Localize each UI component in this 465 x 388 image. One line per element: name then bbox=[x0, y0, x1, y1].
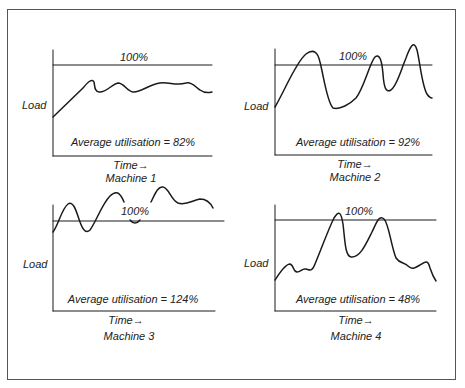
average-utilisation-text: Average utilisation = 92% bbox=[296, 136, 420, 148]
y-axis-label: Load bbox=[244, 257, 268, 269]
x-axis-label: Time→ bbox=[337, 158, 372, 170]
reference-label: 100% bbox=[339, 50, 367, 62]
machine-label: Machine 2 bbox=[330, 171, 381, 183]
machine-label: Machine 3 bbox=[104, 330, 155, 342]
machine-label: Machine 1 bbox=[106, 172, 157, 184]
average-utilisation-text: Average utilisation = 82% bbox=[71, 136, 195, 148]
load-charts bbox=[0, 0, 465, 388]
load-curve-segment-1 bbox=[53, 193, 124, 232]
average-utilisation-text: Average utilisation = 48% bbox=[296, 293, 420, 305]
reference-label: 100% bbox=[345, 205, 373, 217]
y-axis-label: Load bbox=[22, 99, 46, 111]
y-axis-label: Load bbox=[23, 258, 47, 270]
reference-label: 100% bbox=[121, 205, 149, 217]
machine-label: Machine 4 bbox=[331, 330, 382, 342]
reference-label: 100% bbox=[120, 51, 148, 63]
load-curve-segment-3 bbox=[151, 187, 213, 208]
x-axis-label: Time→ bbox=[108, 314, 143, 326]
x-axis-label: Time→ bbox=[338, 314, 373, 326]
x-axis-label: Time→ bbox=[113, 159, 148, 171]
average-utilisation-text: Average utilisation = 124% bbox=[68, 293, 198, 305]
load-curve bbox=[275, 213, 436, 281]
y-axis-label: Load bbox=[244, 100, 268, 112]
load-curve bbox=[53, 80, 212, 117]
